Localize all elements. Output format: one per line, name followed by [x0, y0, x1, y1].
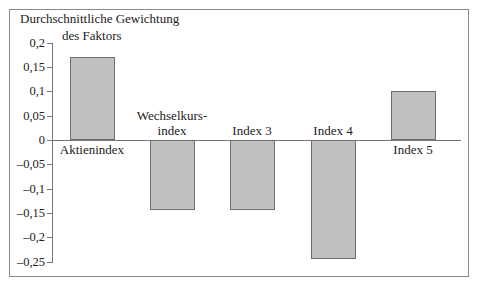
y-tick-label: –0,15	[17, 206, 45, 220]
bar-index-3	[230, 140, 275, 210]
y-tick-label: 0,1	[29, 84, 45, 98]
y-tick-label: 0,05	[23, 109, 45, 123]
y-tick	[47, 189, 52, 190]
category-label: Index 4	[288, 123, 378, 138]
y-tick	[47, 140, 52, 141]
y-tick	[47, 67, 52, 68]
bar-index-5	[391, 91, 436, 140]
category-label: Index 3	[207, 123, 297, 138]
y-tick	[47, 116, 52, 117]
category-label-line: Aktienindex	[47, 142, 137, 157]
y-tick	[47, 43, 52, 44]
y-tick-label: 0,2	[29, 36, 45, 50]
y-tick-label: –0,1	[23, 182, 45, 196]
category-label: Aktienindex	[47, 142, 137, 157]
chart-title-line-2: des Faktors	[62, 28, 122, 43]
y-tick	[47, 213, 52, 214]
y-tick	[47, 262, 52, 263]
category-label-line: Wechselkurs-	[127, 108, 217, 123]
chart-title-line-1: Durchschnittliche Gewichtung	[20, 11, 179, 26]
y-tick-label: –0,2	[23, 230, 45, 244]
category-label: Wechselkurs-index	[127, 108, 217, 138]
bar-index-4	[311, 140, 356, 259]
y-tick	[47, 237, 52, 238]
category-label-line: index	[127, 123, 217, 138]
bar-wechselkurs-index	[150, 140, 195, 210]
y-tick-label: –0,25	[17, 255, 45, 269]
category-label: Index 5	[368, 142, 458, 157]
bar-aktienindex	[70, 57, 115, 140]
category-label-line: Index 4	[288, 123, 378, 138]
y-tick-label: 0	[39, 133, 45, 147]
y-tick-label: 0,15	[23, 60, 45, 74]
category-label-line: Index 3	[207, 123, 297, 138]
y-tick	[47, 91, 52, 92]
y-tick	[47, 164, 52, 165]
category-label-line: Index 5	[368, 142, 458, 157]
y-tick-label: –0,05	[17, 157, 45, 171]
